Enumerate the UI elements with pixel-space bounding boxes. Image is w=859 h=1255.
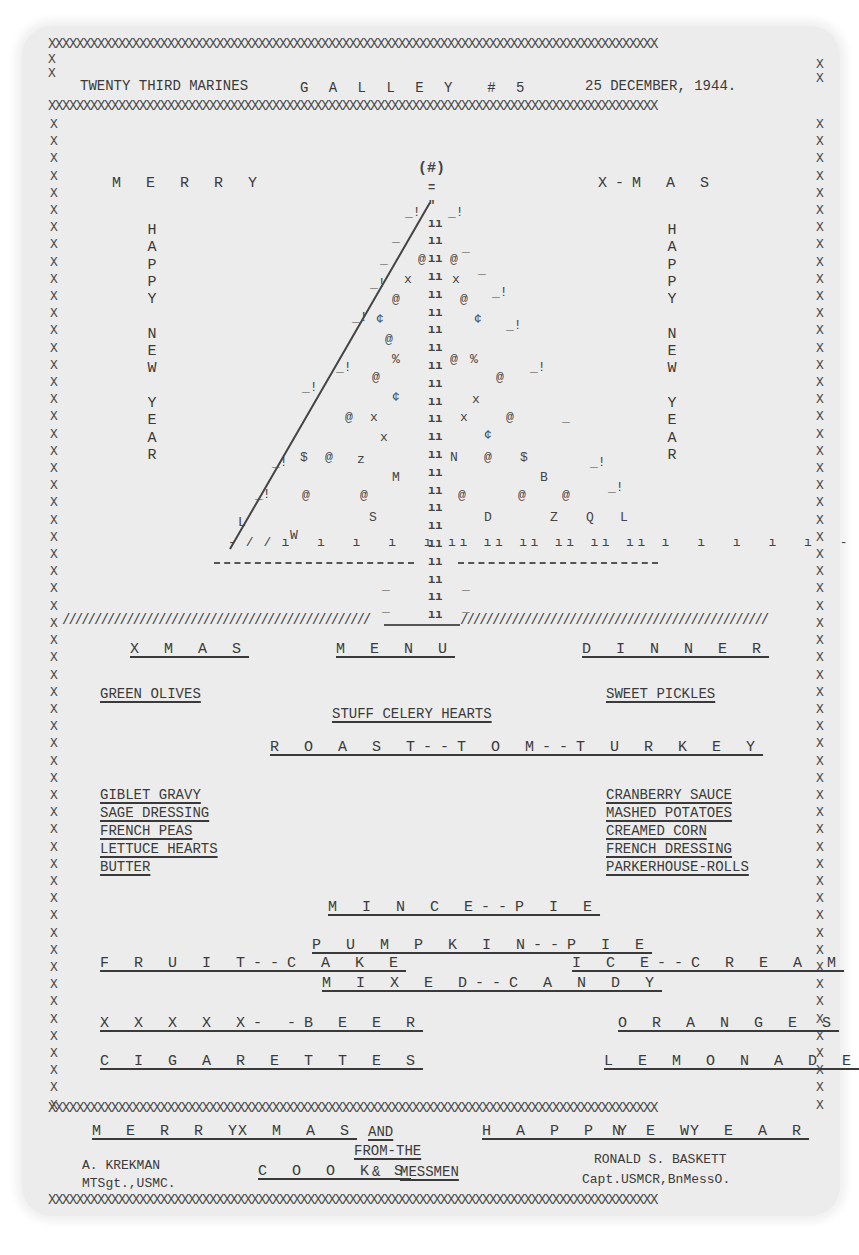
- item-pumpkin-pie: P U M P K I N--P I E: [312, 938, 652, 954]
- ornament-percent: %: [392, 352, 400, 367]
- greeting-merry: M E R R Y: [112, 176, 265, 192]
- item-mince-pie: M I N C E--P I E: [328, 900, 600, 916]
- tree-step: _!: [255, 487, 271, 502]
- ornament-n: N: [450, 450, 458, 465]
- header-bottom-x-border: XXXXXXXXXXXXXXXXXXXXXXXXXXXXXXXXXXXXXXXX…: [48, 98, 838, 114]
- ornament-d: D: [484, 510, 492, 525]
- sides-right-list: CRANBERRY SAUCE MASHED POTATOES CREAMED …: [606, 786, 749, 876]
- ornament-dollar: $: [520, 450, 528, 465]
- ornament-m: M: [392, 470, 400, 485]
- ornament-at: @: [450, 252, 458, 267]
- tree-step: _!: [448, 205, 464, 220]
- side-item: BUTTER: [100, 858, 218, 876]
- ornament-s: S: [369, 510, 377, 525]
- tree-step: _: [392, 230, 400, 245]
- header-galley: G A L L E Y # 5: [300, 80, 530, 96]
- header-unit: TWENTY THIRD MARINES: [80, 78, 248, 94]
- ornament-x: x: [380, 430, 388, 445]
- greeting-left-vertical: H A P P Y N E W Y E A R: [142, 222, 162, 464]
- tree-step: _: [380, 252, 388, 267]
- item-beer: X X X X X- -B E E R: [100, 1016, 423, 1032]
- bottom-x-border: XXXXXXXXXXXXXXXXXXXXXXXXXXXXXXXXXXXXXXXX…: [48, 1192, 838, 1208]
- footer-new: N E W: [612, 1124, 697, 1140]
- tree-step: _!: [370, 276, 386, 291]
- tree-step: _!: [492, 285, 508, 300]
- greeting-xmas: X-M A S: [598, 176, 717, 192]
- signer-right-rank: Capt.USMCR,BnMessO.: [582, 1172, 730, 1188]
- ornament-at: @: [302, 488, 310, 503]
- item-ice-cream: I C E--C R E A M: [572, 956, 844, 972]
- side-item: CREAMED CORN: [606, 822, 749, 840]
- tree-step: _!: [506, 318, 522, 333]
- signer-right-name: RONALD S. BASKETT: [594, 1152, 727, 1168]
- greeting-right-vertical: H A P P Y N E W Y E A R: [662, 222, 682, 464]
- ornament-cent: ¢: [484, 428, 492, 443]
- hash-divider-center: [384, 624, 460, 626]
- header-date: 25 DECEMBER, 1944.: [585, 78, 736, 94]
- ornament-x: x: [460, 410, 468, 425]
- tree-trunk: ="ıııııııııııııııııııııııııııııııııııııı…: [428, 180, 442, 625]
- menu-title-xmas: X M A S: [130, 642, 249, 658]
- ornament-at: @: [345, 410, 353, 425]
- item-green-olives: GREEN OLIVES: [100, 686, 201, 702]
- signer-left-name: A. KREKMAN: [82, 1158, 160, 1174]
- ornament-x: x: [404, 272, 412, 287]
- item-oranges: O R A N G E S: [618, 1016, 839, 1032]
- hash-divider-left: ////////////////////////////////////////…: [62, 612, 384, 628]
- tree-step: _!: [590, 455, 606, 470]
- footer-year: Y E A R: [690, 1124, 809, 1140]
- tree-step: _!: [352, 310, 368, 325]
- ornament-at: @: [484, 450, 492, 465]
- hash-divider-right: ////////////////////////////////////////…: [460, 612, 812, 628]
- footer-and: AND: [368, 1124, 393, 1140]
- side-item: FRENCH PEAS: [100, 822, 218, 840]
- side-item: MASHED POTATOES: [606, 804, 749, 822]
- header-right-x-marks: XX: [816, 58, 824, 86]
- footer-xmas: X M A S: [238, 1124, 357, 1140]
- side-item: CRANBERRY SAUCE: [606, 786, 749, 804]
- tree-step: _!: [608, 480, 624, 495]
- ornament-at: @: [360, 488, 368, 503]
- footer-from-the: FROM-THE: [354, 1143, 421, 1159]
- tree-step: _: [562, 410, 570, 425]
- tree-step: _: [478, 262, 486, 277]
- ornament-cent: ¢: [474, 312, 482, 327]
- menu-title-dinner: D I N N E R: [582, 642, 769, 658]
- side-item: PARKERHOUSE-ROLLS: [606, 858, 749, 876]
- ornament-x: x: [472, 392, 480, 407]
- ornament-at: @: [506, 410, 514, 425]
- sides-left-list: GIBLET GRAVY SAGE DRESSING FRENCH PEAS L…: [100, 786, 218, 876]
- tree-step: L: [238, 515, 246, 530]
- tree-base-line-right: [458, 562, 658, 564]
- ornament-at: @: [518, 488, 526, 503]
- item-sweet-pickles: SWEET PICKLES: [606, 686, 715, 702]
- ornament-cent: ¢: [376, 312, 384, 327]
- tree-step: _!: [302, 380, 318, 395]
- ornament-cent: ¢: [392, 390, 400, 405]
- tree-step: _!: [530, 360, 546, 375]
- signer-left-rank: MTSgt.,USMC.: [82, 1176, 176, 1192]
- ornament-x: x: [370, 410, 378, 425]
- tree-base-ticks-right: ı ı ı ı ı ı ı ı ı ı ı -: [448, 535, 857, 550]
- ornament-at: @: [450, 352, 458, 367]
- ornament-z: Z: [550, 510, 558, 525]
- footer-merry: M E R R Y: [92, 1124, 245, 1140]
- ornament-at: @: [458, 488, 466, 503]
- footer-messmen: MESSMEN: [400, 1164, 459, 1180]
- ornament-dollar: $: [300, 450, 308, 465]
- ornament-at: @: [562, 488, 570, 503]
- ornament-b: B: [540, 470, 548, 485]
- side-item: LETTUCE HEARTS: [100, 840, 218, 858]
- side-item: FRENCH DRESSING: [606, 840, 749, 858]
- item-lemonade: L E M O N A D E: [604, 1054, 859, 1070]
- header-left-x-marks: XX: [48, 53, 56, 81]
- ornament-at: @: [418, 252, 426, 267]
- ornament-at: @: [372, 370, 380, 385]
- ornament-at: @: [325, 450, 333, 465]
- item-roast-turkey: R O A S T--T O M--T U R K E Y: [270, 740, 763, 756]
- ornament-at: @: [392, 292, 400, 307]
- footer-ampersand: &: [372, 1164, 380, 1180]
- ornament-x: x: [452, 272, 460, 287]
- item-cigarettes: C I G A R E T T E S: [100, 1054, 423, 1070]
- menu-title-menu: M E N U: [336, 642, 455, 658]
